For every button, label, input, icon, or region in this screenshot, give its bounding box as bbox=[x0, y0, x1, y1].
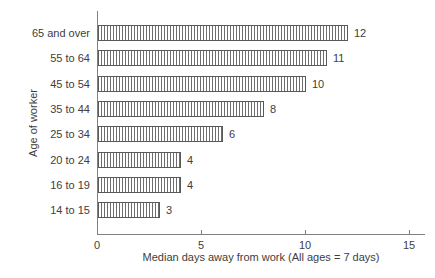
bar-35-to-44 bbox=[98, 101, 264, 117]
bar-65-and-over bbox=[98, 25, 348, 41]
bar-16-to-19 bbox=[98, 177, 181, 193]
x-tick-label: 10 bbox=[290, 239, 320, 251]
value-label: 3 bbox=[166, 202, 172, 218]
bar-25-to-34 bbox=[98, 126, 223, 142]
x-tick-label: 5 bbox=[186, 239, 216, 251]
bar-14-to-15 bbox=[98, 202, 160, 218]
value-label: 6 bbox=[229, 126, 235, 142]
category-label: 45 to 54 bbox=[2, 76, 90, 92]
value-label: 10 bbox=[312, 76, 324, 92]
x-tick-mark bbox=[97, 230, 98, 234]
bar-chart: Age of worker 65 and over1255 to 641145 … bbox=[0, 0, 435, 278]
bar-20-to-24 bbox=[98, 152, 181, 168]
x-tick-mark bbox=[409, 230, 410, 234]
category-label: 20 to 24 bbox=[2, 152, 90, 168]
bar-55-to-64 bbox=[98, 50, 327, 66]
value-label: 11 bbox=[333, 50, 344, 66]
value-label: 8 bbox=[270, 101, 276, 117]
bar-45-to-54 bbox=[98, 76, 306, 92]
category-label: 35 to 44 bbox=[2, 101, 90, 117]
category-label: 25 to 34 bbox=[2, 126, 90, 142]
x-tick-label: 15 bbox=[394, 239, 424, 251]
x-tick-mark bbox=[305, 230, 306, 234]
category-label: 65 and over bbox=[2, 25, 90, 41]
value-label: 12 bbox=[354, 25, 366, 41]
category-label: 55 to 64 bbox=[2, 50, 90, 66]
category-label: 14 to 15 bbox=[2, 202, 90, 218]
category-label: 16 to 19 bbox=[2, 177, 90, 193]
x-axis-title: Median days away from work (All ages = 7… bbox=[97, 251, 425, 263]
value-label: 4 bbox=[187, 152, 193, 168]
value-label: 4 bbox=[187, 177, 193, 193]
x-tick-mark bbox=[201, 230, 202, 234]
x-tick-label: 0 bbox=[82, 239, 112, 251]
